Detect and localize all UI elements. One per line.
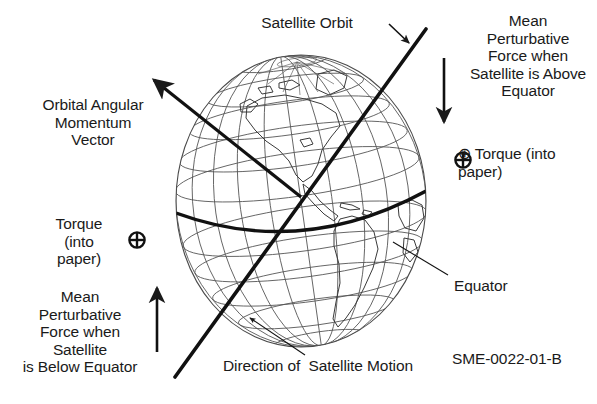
label-direction-of-satellite-motion: Direction of Satellite Motion [223,357,453,375]
label-satellite-orbit: Satellite Orbit [232,14,382,32]
torque-into-paper-icon-left [129,232,144,247]
label-mean-perturbative-force-above-equator: Mean Perturbative Force when Satellite i… [462,12,594,100]
satellite-orbit-leader [389,24,409,43]
label-equator: Equator [454,277,544,295]
figure-code: SME-0022-01-B [452,350,592,368]
label-torque-into-paper-left: Torque (into paper) [38,215,120,268]
label-torque-into-paper-right: ⊕ Torque (into paper) [458,145,590,180]
label-mean-perturbative-force-below-equator: Mean Perturbative Force when Satellite i… [10,288,150,376]
satellite-orbit-diagram: Orbital Angular Momentum Vector Satellit… [0,0,597,404]
label-orbital-angular-momentum-vector: Orbital Angular Momentum Vector [18,96,168,149]
